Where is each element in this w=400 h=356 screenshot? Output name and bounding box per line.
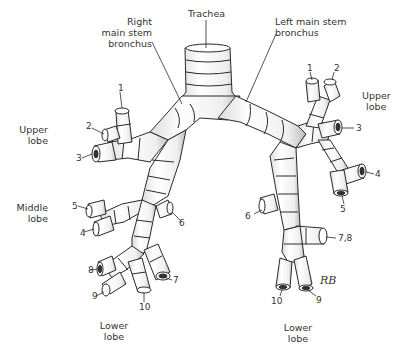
left-segment-6: 6 <box>245 211 251 221</box>
right-segment-6: 6 <box>179 218 185 228</box>
right-segment-10: 10 <box>139 302 150 312</box>
left-segment-10: 10 <box>271 296 282 306</box>
right-segment-7: 7 <box>173 275 179 285</box>
label-right-lower-lobe: Lower lobe <box>94 320 134 342</box>
left-segment-2: 2 <box>334 63 340 73</box>
label-trachea: Trachea <box>188 8 225 19</box>
label-right-main-stem-bronchus: Right main stem bronchus <box>90 16 152 49</box>
right-segment-5: 5 <box>72 201 78 211</box>
left-upper-lobe-bronchus <box>296 78 366 196</box>
right-segment-1: 1 <box>118 83 124 93</box>
label-left-lower-lobe: Lower lobe <box>278 322 318 344</box>
left-lower-lobe-bronchus <box>259 142 327 291</box>
left-segment-7-8: 7,8 <box>338 233 352 243</box>
trachea <box>180 44 238 100</box>
bronchial-tree-illustration: RB <box>0 0 400 356</box>
right-segment-2: 2 <box>86 121 92 131</box>
right-segment-4: 4 <box>80 228 86 238</box>
right-upper-lobe-bronchus <box>92 108 168 162</box>
right-segment-3: 3 <box>76 153 82 163</box>
left-main-bronchus <box>218 96 306 148</box>
right-middle-lobe-bronchus <box>86 200 173 236</box>
left-segment-1: 1 <box>307 63 313 73</box>
label-right-upper-lobe: Upper lobe <box>12 124 48 146</box>
left-segment-3: 3 <box>356 123 362 133</box>
left-segment-5: 5 <box>340 204 346 214</box>
label-right-middle-lobe: Middle lobe <box>8 202 48 224</box>
right-segment-8: 8 <box>88 265 94 275</box>
label-left-upper-lobe: Upper lobe <box>362 90 391 112</box>
bronchial-tree-diagram: RB Trachea Right main stem bronchus Left… <box>0 0 400 356</box>
label-left-main-stem-bronchus: Left main stem bronchus <box>275 16 346 38</box>
artist-signature: RB <box>319 274 336 287</box>
right-segment-9: 9 <box>92 291 98 301</box>
left-segment-9: 9 <box>316 295 322 305</box>
left-segment-4: 4 <box>375 169 381 179</box>
